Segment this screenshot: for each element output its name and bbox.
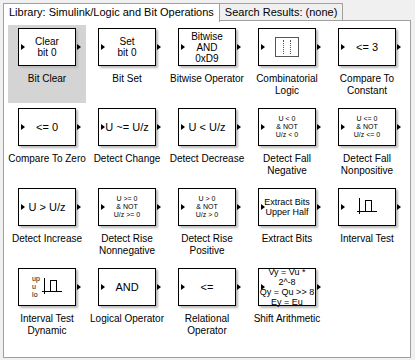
block-relational-operator[interactable]: <= Relational Operator — [168, 265, 246, 343]
block-label: Detect Change — [88, 153, 166, 165]
block-icon-text: U < 0 & NOT U/z < 0 — [276, 115, 298, 139]
block-combinatorial-logic[interactable]: Combinatorial Logic — [248, 25, 326, 103]
block-icon-text: U < U/z — [189, 122, 226, 133]
truth-table-icon — [275, 37, 299, 57]
block-shift-arithmetic[interactable]: Vy = Vu * 2^-8 Qy = Qu >> 8 Ey = Eu Shif… — [248, 265, 326, 343]
block-compare-to-zero[interactable]: <= 0 Compare To Zero — [8, 105, 86, 183]
bit-clear-icon: Clear bit 0 — [18, 28, 76, 66]
shift-arithmetic-icon: Vy = Vu * 2^-8 Qy = Qu >> 8 Ey = Eu — [258, 268, 316, 306]
block-detect-fall-negative[interactable]: U < 0 & NOT U/z < 0 Detect Fall Negative — [248, 105, 326, 183]
detect-decrease-icon: U < U/z — [178, 108, 236, 146]
interval-pulse-icon — [42, 278, 62, 296]
block-bitwise-operator[interactable]: Bitwise AND 0xD9 Bitwise Operator — [168, 25, 246, 103]
block-bit-set[interactable]: Set bit 0 Bit Set — [88, 25, 166, 103]
block-label: Compare To Constant — [328, 73, 406, 97]
block-label: Detect Fall Negative — [248, 153, 326, 177]
block-icon-text: <= 3 — [356, 42, 378, 53]
block-interval-test-dynamic[interactable]: up u lo Interval Test Dynamic — [8, 265, 86, 343]
tab-library[interactable]: Library: Simulink/Logic and Bit Operatio… — [3, 3, 220, 22]
block-icon-text: Vy = Vu * 2^-8 Qy = Qu >> 8 Ey = Eu — [259, 267, 315, 307]
block-icon-text: AND — [115, 282, 138, 293]
block-icon-text: Extract Bits Upper Half — [264, 197, 310, 217]
detect-fall-nonpositive-icon: U <= 0 & NOT U/z <= 0 — [338, 108, 396, 146]
block-icon-text: <= — [201, 282, 214, 293]
interval-pulse-icon — [357, 198, 377, 216]
block-label: Relational Operator — [168, 313, 246, 337]
block-label: Interval Test Dynamic — [8, 313, 86, 337]
block-label: Bitwise Operator — [168, 73, 246, 85]
detect-increase-icon: U > U/z — [18, 188, 76, 226]
block-detect-rise-positive[interactable]: U > 0 & NOT U/z > 0 Detect Rise Positive — [168, 185, 246, 263]
block-icon-text: U ~= U/z — [105, 122, 148, 133]
detect-change-icon: U ~= U/z — [98, 108, 156, 146]
block-detect-fall-nonpositive[interactable]: U <= 0 & NOT U/z <= 0 Detect Fall Nonpos… — [328, 105, 406, 183]
block-detect-change[interactable]: U ~= U/z Detect Change — [88, 105, 166, 183]
compare-to-constant-icon: <= 3 — [338, 28, 396, 66]
block-label: Detect Increase — [8, 233, 86, 245]
logical-operator-icon: AND — [98, 268, 156, 306]
block-icon-text: U >= 0 & NOT U/z >= 0 — [114, 195, 140, 219]
detect-rise-nonnegative-icon: U >= 0 & NOT U/z >= 0 — [98, 188, 156, 226]
block-detect-increase[interactable]: U > U/z Detect Increase — [8, 185, 86, 263]
tab-search-results[interactable]: Search Results: (none) — [219, 3, 344, 20]
block-label: Extract Bits — [248, 233, 326, 245]
interval-dynamic-graphic: up u lo — [32, 275, 62, 299]
block-label: Detect Rise Nonnegative — [88, 233, 166, 257]
block-label: Detect Fall Nonpositive — [328, 153, 406, 177]
interval-test-dynamic-icon: up u lo — [18, 268, 76, 306]
block-detect-decrease[interactable]: U < U/z Detect Decrease — [168, 105, 246, 183]
block-label: Detect Rise Positive — [168, 233, 246, 257]
detect-rise-positive-icon: U > 0 & NOT U/z > 0 — [178, 188, 236, 226]
block-label: Shift Arithmetic — [248, 313, 326, 325]
block-label: Bit Clear — [8, 73, 86, 85]
relational-operator-icon: <= — [178, 268, 236, 306]
interval-test-icon — [338, 188, 396, 226]
block-bit-clear[interactable]: Clear bit 0 Bit Clear — [8, 25, 86, 103]
block-label: Detect Decrease — [168, 153, 246, 165]
bit-set-icon: Set bit 0 — [98, 28, 156, 66]
block-icon-text: U > 0 & NOT U/z > 0 — [196, 195, 218, 219]
block-port-labels: up u lo — [32, 275, 40, 299]
block-icon-text: <= 0 — [36, 122, 58, 133]
block-detect-rise-nonnegative[interactable]: U >= 0 & NOT U/z >= 0 Detect Rise Nonneg… — [88, 185, 166, 263]
block-extract-bits[interactable]: Extract Bits Upper Half Extract Bits — [248, 185, 326, 263]
block-icon-text: Bitwise AND 0xD9 — [191, 31, 223, 64]
block-icon-text: Clear bit 0 — [35, 36, 59, 58]
block-label: Logical Operator — [88, 313, 166, 325]
library-panel: Clear bit 0 Bit Clear Set bit 0 Bit Set … — [3, 20, 411, 358]
block-label: Bit Set — [88, 73, 166, 85]
block-icon-text: Set bit 0 — [118, 36, 137, 58]
block-grid: Clear bit 0 Bit Clear Set bit 0 Bit Set … — [8, 25, 408, 345]
compare-to-zero-icon: <= 0 — [18, 108, 76, 146]
extract-bits-icon: Extract Bits Upper Half — [258, 188, 316, 226]
block-label: Interval Test — [328, 233, 406, 245]
detect-fall-negative-icon: U < 0 & NOT U/z < 0 — [258, 108, 316, 146]
combinatorial-logic-icon — [258, 28, 316, 66]
block-compare-to-constant[interactable]: <= 3 Compare To Constant — [328, 25, 406, 103]
block-interval-test[interactable]: Interval Test — [328, 185, 406, 263]
block-label: Combinatorial Logic — [248, 73, 326, 97]
block-icon-text: U > U/z — [29, 202, 66, 213]
block-icon-text: U <= 0 & NOT U/z <= 0 — [354, 115, 380, 139]
bitwise-operator-icon: Bitwise AND 0xD9 — [178, 28, 236, 66]
block-logical-operator[interactable]: AND Logical Operator — [88, 265, 166, 343]
library-tabbar: Library: Simulink/Logic and Bit Operatio… — [3, 3, 343, 20]
block-label: Compare To Zero — [8, 153, 86, 165]
